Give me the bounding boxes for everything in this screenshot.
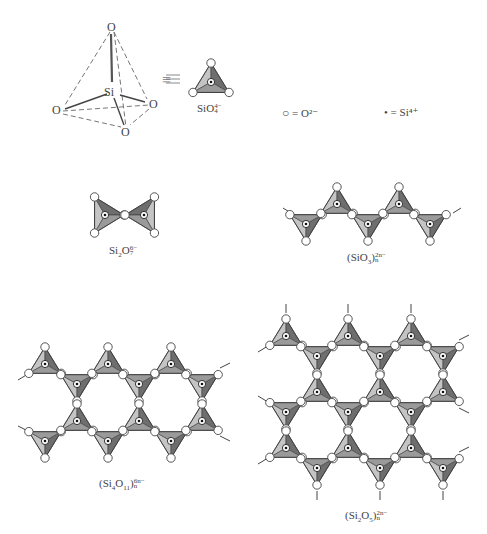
silicon-dot-icon [201, 420, 204, 423]
legend-silicon-text: = Si⁴⁺ [391, 106, 419, 118]
oxygen-atom-icon [439, 481, 447, 489]
legend-silicon: • = Si⁴⁺ [384, 106, 418, 119]
oxygen-atom-icon [455, 342, 463, 350]
silicon-dot-icon [379, 467, 382, 470]
silicon-dot-icon [104, 214, 107, 217]
atom-oxygen-right: O [149, 98, 158, 110]
silicon-dot-icon [305, 223, 308, 226]
tetrahedron-edge-dashed [114, 32, 147, 99]
oxygen-atom-icon [391, 398, 399, 406]
oxygen-atom-icon [423, 397, 431, 405]
silicon-dot-icon [347, 447, 350, 450]
oxygen-atom-icon [360, 397, 368, 405]
oxygen-atom-icon [395, 183, 403, 191]
si-o-bond-top [111, 34, 112, 82]
oxygen-atom-icon [317, 209, 325, 217]
oxygen-atom-icon [328, 398, 336, 406]
silicon-dot-icon [138, 383, 141, 386]
chain-continuation-line [459, 447, 469, 452]
silicon-dot-icon [429, 223, 432, 226]
oxygen-atom-icon [376, 481, 384, 489]
oxygen-atom-icon [88, 427, 96, 435]
oxygen-atom-icon [302, 237, 310, 245]
oxygen-atom-icon [439, 371, 447, 379]
oxygen-atom-icon [426, 237, 434, 245]
oxygen-atom-icon [348, 210, 356, 218]
silicon-dot-icon [285, 447, 288, 450]
oxygen-atom-icon [167, 454, 175, 462]
tetrahedron-edge-dashed [63, 105, 149, 111]
si-o-bond-left [65, 94, 107, 109]
oxygen-atom-icon [407, 315, 415, 323]
silicon-dot-icon [143, 214, 146, 217]
silicon-dot-icon [336, 203, 339, 206]
silicon-dot-icon [316, 467, 319, 470]
oxygen-atom-icon [73, 400, 81, 408]
oxygen-atom-icon [225, 88, 233, 96]
silicon-dot-icon [347, 411, 350, 414]
oxygen-atom-icon [410, 210, 418, 218]
chain-continuation-line [459, 335, 469, 340]
silicon-dot-icon [76, 420, 79, 423]
oxygen-circle-icon: ○ [282, 106, 289, 120]
silicon-dot-icon [367, 223, 370, 226]
silicon-dot-icon [107, 440, 110, 443]
label-pyrosilicate: Si2O6−7 [109, 245, 137, 259]
oxygen-atom-icon [297, 454, 305, 462]
oxygen-atom-icon [423, 454, 431, 462]
chain-continuation-line [220, 363, 230, 368]
silicon-dot-icon [170, 363, 173, 366]
silicon-dot-icon [442, 391, 445, 394]
si-o-bond-bottom [114, 98, 124, 125]
oxygen-atom-icon [333, 183, 341, 191]
silicon-dot-icon [410, 335, 413, 338]
silicon-dot-icon [76, 383, 79, 386]
tetrahedron-edge-dashed [130, 109, 149, 125]
oxygen-atom-icon [90, 229, 98, 237]
oxygen-atom-icon [266, 341, 274, 349]
silicate-diagram-svg [0, 0, 487, 534]
oxygen-atom-icon [286, 210, 294, 218]
oxygen-atom-icon [423, 342, 431, 350]
oxygen-atom-icon [344, 427, 352, 435]
oxygen-atom-icon [391, 453, 399, 461]
oxygen-atom-icon [182, 370, 190, 378]
chain-continuation-line [220, 436, 230, 441]
silicon-dot-icon [285, 411, 288, 414]
oxygen-atom-icon [151, 427, 159, 435]
oxygen-atom-icon [150, 229, 158, 237]
oxygen-atom-icon [57, 370, 65, 378]
oxygen-atom-icon [328, 341, 336, 349]
oxygen-atom-icon [151, 369, 159, 377]
silicon-dot-icon [410, 447, 413, 450]
oxygen-atom-icon [121, 211, 129, 219]
oxygen-atom-icon [455, 397, 463, 405]
silicon-dot-icon [379, 391, 382, 394]
oxygen-atom-icon [364, 237, 372, 245]
oxygen-atom-icon [391, 341, 399, 349]
silicon-dot-icon: • [384, 106, 388, 118]
label-double-chain-silicate: (Si4O11)6n−n [99, 478, 145, 492]
oxygen-atom-icon [297, 342, 305, 350]
oxygen-atom-icon [313, 371, 321, 379]
silicon-dot-icon [410, 411, 413, 414]
chain-continuation-line [453, 208, 461, 213]
oxygen-atom-icon [189, 88, 197, 96]
oxygen-atom-icon [104, 343, 112, 351]
label-orthosilicate: SiO4−4 [197, 103, 222, 115]
silicon-dot-icon [285, 335, 288, 338]
atom-oxygen-left: O [52, 104, 61, 116]
legend-oxygen-text: = O²⁻ [292, 107, 318, 119]
silicon-dot-icon [107, 363, 110, 366]
oxygen-atom-icon [41, 343, 49, 351]
oxygen-atom-icon [214, 426, 222, 434]
oxygen-atom-icon [376, 371, 384, 379]
tetrahedron-edge-dashed [63, 114, 121, 127]
oxygen-atom-icon [150, 193, 158, 201]
label-chain-silicate: (SiO3)2n−n [347, 252, 386, 266]
oxygen-atom-icon [90, 193, 98, 201]
silicon-dot-icon [210, 81, 213, 84]
silicon-dot-icon [442, 355, 445, 358]
oxygen-atom-icon [182, 426, 190, 434]
atom-oxygen-bottom: O [121, 126, 130, 138]
